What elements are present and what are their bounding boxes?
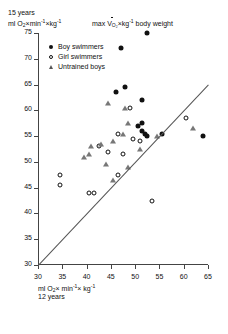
x-tick-label: 35 <box>54 273 70 280</box>
title-tail: body weight <box>134 20 173 27</box>
identity-reference-line <box>38 85 209 266</box>
y-tick-mark <box>34 162 38 163</box>
x-tick-mark <box>184 265 185 269</box>
y-tick-mark <box>34 213 38 214</box>
data-point <box>110 139 116 144</box>
x-tick-label: 50 <box>127 273 143 280</box>
data-point <box>128 105 133 110</box>
y-tick-label: 45 <box>16 183 32 190</box>
data-point <box>140 121 145 126</box>
x-tick-mark <box>87 265 88 269</box>
footer-age-label: 12 years <box>38 292 65 301</box>
y-tick-mark <box>34 188 38 189</box>
y-tick-label: 35 <box>16 234 32 241</box>
y-tick-label: 65 <box>16 80 32 87</box>
data-point <box>120 131 126 136</box>
y-tick-mark <box>34 85 38 86</box>
x-tick-label: 40 <box>79 273 95 280</box>
data-point <box>105 100 111 105</box>
chart-title: max VO₂×kg-1 body weight <box>92 17 173 30</box>
y-tick-mark <box>34 59 38 60</box>
data-point <box>122 105 128 110</box>
x-tick-mark <box>62 265 63 269</box>
scatter-plot-area: 303540455055606570753035404550556065 <box>38 33 208 265</box>
data-point <box>113 90 118 95</box>
data-point <box>150 198 155 203</box>
footer-unit-sup2: -1 <box>91 283 95 289</box>
y-tick-label: 60 <box>16 105 32 112</box>
data-point <box>145 31 150 36</box>
y-tick-label: 30 <box>16 260 32 267</box>
y-tick-mark <box>34 33 38 34</box>
y-tick-label: 55 <box>16 131 32 138</box>
data-point <box>137 147 143 152</box>
x-tick-label: 30 <box>30 273 46 280</box>
data-point <box>130 136 135 141</box>
data-point <box>98 141 104 146</box>
data-point <box>57 172 62 177</box>
data-point <box>140 98 145 103</box>
data-point <box>86 152 92 157</box>
data-point <box>184 116 189 121</box>
data-point <box>201 134 206 139</box>
x-tick-label: 55 <box>151 273 167 280</box>
data-point <box>125 121 131 126</box>
y-tick-mark <box>34 136 38 137</box>
title-prefix: max V <box>92 20 112 27</box>
x-axis-line <box>38 264 208 265</box>
data-point <box>123 85 128 90</box>
footer-unit-mid: × min <box>56 285 73 292</box>
x-tick-mark <box>208 265 209 269</box>
y-tick-mark <box>34 110 38 111</box>
x-tick-label: 60 <box>176 273 192 280</box>
header-unit-mid2: ×kg <box>45 20 56 27</box>
footer-unit-prefix: ml O <box>38 285 53 292</box>
x-tick-mark <box>135 265 136 269</box>
data-point <box>190 126 196 131</box>
data-point <box>118 46 123 51</box>
data-point <box>145 134 150 139</box>
y-tick-mark <box>34 239 38 240</box>
y-tick-label: 70 <box>16 54 32 61</box>
data-point <box>103 162 109 167</box>
x-tick-label: 45 <box>103 273 119 280</box>
x-tick-mark <box>159 265 160 269</box>
data-point <box>91 190 96 195</box>
y-tick-label: 40 <box>16 208 32 215</box>
y-axis-line <box>38 33 39 265</box>
data-point <box>88 144 94 149</box>
y-tick-label: 75 <box>16 28 32 35</box>
x-tick-mark <box>111 265 112 269</box>
header-unit-mid: ×min <box>26 20 41 27</box>
data-point <box>121 152 126 157</box>
x-tick-label: 65 <box>200 273 216 280</box>
data-point <box>106 149 111 154</box>
footer-unit-mid2: × kg <box>77 285 90 292</box>
y-tick-label: 50 <box>16 157 32 164</box>
data-point <box>57 183 62 188</box>
title-post: ×kg <box>118 20 129 27</box>
header-unit-sup2: -1 <box>57 18 61 24</box>
header-age-label: 15 years <box>8 8 35 17</box>
header-unit-prefix: ml O <box>8 20 23 27</box>
data-point <box>138 139 143 144</box>
